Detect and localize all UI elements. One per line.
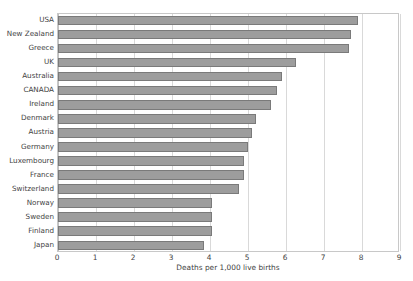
bar xyxy=(58,114,256,124)
x-tick-label: 6 xyxy=(275,253,295,262)
category-label: CANADA xyxy=(0,83,54,96)
x-tick-label: 5 xyxy=(237,253,257,262)
bar xyxy=(58,184,239,194)
x-tick-label: 3 xyxy=(161,253,181,262)
x-tick-label: 7 xyxy=(313,253,333,262)
bar-row xyxy=(58,98,400,111)
bar-row xyxy=(58,169,400,182)
bar xyxy=(58,58,296,68)
bar-row xyxy=(58,197,400,210)
bar xyxy=(58,198,212,208)
bar-row xyxy=(58,112,400,125)
category-label: UK xyxy=(0,55,54,68)
bar-row xyxy=(58,84,400,97)
x-tick-label: 1 xyxy=(85,253,105,262)
category-label: Japan xyxy=(0,238,54,251)
bar xyxy=(58,170,244,180)
x-tick-label: 8 xyxy=(351,253,371,262)
bar-row xyxy=(58,155,400,168)
plot-area xyxy=(57,13,399,252)
category-axis-labels: USANew ZealandGreeceUKAustraliaCANADAIre… xyxy=(0,13,54,252)
bar xyxy=(58,226,212,236)
bar xyxy=(58,86,277,96)
x-tick-label: 9 xyxy=(389,253,409,262)
bar-row xyxy=(58,141,400,154)
category-label: New Zealand xyxy=(0,27,54,40)
bar xyxy=(58,156,244,166)
chart-title xyxy=(0,0,413,6)
bar-row xyxy=(58,56,400,69)
category-label: Norway xyxy=(0,196,54,209)
category-label: Germany xyxy=(0,140,54,153)
category-label: Sweden xyxy=(0,210,54,223)
bar-row xyxy=(58,225,400,238)
bar xyxy=(58,44,349,54)
x-axis-title: Deaths per 1,000 live births xyxy=(57,263,399,272)
bar xyxy=(58,100,271,110)
bar-row xyxy=(58,28,400,41)
bar-row xyxy=(58,239,400,252)
bar-row xyxy=(58,183,400,196)
category-label: Greece xyxy=(0,41,54,54)
category-label: France xyxy=(0,168,54,181)
bar xyxy=(58,212,212,222)
x-tick-label: 2 xyxy=(123,253,143,262)
x-tick-label: 4 xyxy=(199,253,219,262)
category-label: Austria xyxy=(0,125,54,138)
bar xyxy=(58,72,282,82)
category-label: Luxembourg xyxy=(0,154,54,167)
category-label: Finland xyxy=(0,224,54,237)
x-tick-label: 0 xyxy=(47,253,67,262)
gridline-9 xyxy=(400,14,401,251)
bar-row xyxy=(58,14,400,27)
bar xyxy=(58,30,351,40)
bar-row xyxy=(58,70,400,83)
bars-layer xyxy=(58,14,398,251)
bar xyxy=(58,142,248,152)
bar xyxy=(58,128,252,138)
bar xyxy=(58,16,358,26)
category-label: Denmark xyxy=(0,111,54,124)
bar-row xyxy=(58,42,400,55)
category-label: USA xyxy=(0,13,54,26)
bar xyxy=(58,241,204,251)
bar-row xyxy=(58,126,400,139)
category-label: Switzerland xyxy=(0,182,54,195)
category-label: Australia xyxy=(0,69,54,82)
bar-row xyxy=(58,211,400,224)
bar-chart: USANew ZealandGreeceUKAustraliaCANADAIre… xyxy=(0,0,413,281)
category-label: Ireland xyxy=(0,97,54,110)
